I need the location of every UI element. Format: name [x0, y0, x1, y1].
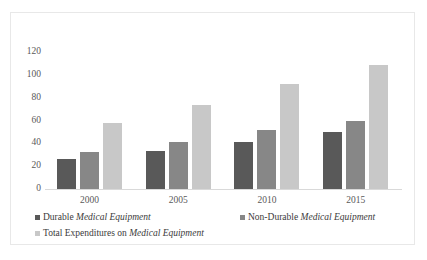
legend-item-label: Non-Durable Medical Equipment	[248, 211, 375, 223]
bar-durable-2015[interactable]	[323, 132, 342, 189]
y-tick-label: 120	[15, 47, 41, 57]
chart-frame: 120 100 80 60 40 20 0	[10, 12, 415, 245]
y-tick-label: 40	[15, 139, 41, 149]
bar-group-2000	[45, 52, 134, 189]
bar-durable-2000[interactable]	[57, 159, 76, 189]
legend-item-label: Durable Medical Equipment	[43, 211, 151, 223]
y-tick-label: 60	[15, 116, 41, 126]
bar-durable-2010[interactable]	[234, 142, 253, 189]
bar-group-2005	[134, 52, 223, 189]
legend-text-plain: Total Expenditures on	[43, 228, 129, 238]
legend-swatch-icon	[240, 215, 245, 220]
legend-text-italic: Medical Equipment	[76, 212, 151, 222]
legend-row-1: Durable Medical Equipment Non-Durable Me…	[35, 211, 405, 223]
y-tick-label: 100	[15, 70, 41, 80]
x-tick-label: 2005	[134, 193, 223, 207]
legend-item-non-durable[interactable]: Non-Durable Medical Equipment	[240, 211, 375, 223]
x-axis: 2000 2005 2010 2015	[45, 193, 400, 207]
bar-non-durable-2000[interactable]	[80, 152, 99, 189]
legend-item-durable[interactable]: Durable Medical Equipment	[35, 211, 240, 223]
bar-durable-2005[interactable]	[146, 151, 165, 189]
chart-legend: Durable Medical Equipment Non-Durable Me…	[35, 211, 405, 243]
legend-swatch-icon	[35, 215, 40, 220]
bar-total-2000[interactable]	[103, 123, 122, 189]
y-tick-label: 80	[15, 93, 41, 103]
legend-row-2: Total Expenditures on Medical Equipment	[35, 227, 405, 239]
plot-area	[45, 52, 400, 189]
bar-total-2005[interactable]	[192, 105, 211, 189]
x-tick-label: 2015	[311, 193, 400, 207]
legend-swatch-icon	[35, 231, 40, 236]
bar-non-durable-2015[interactable]	[346, 121, 365, 190]
y-tick-label: 20	[15, 161, 41, 171]
x-axis-line	[45, 189, 402, 190]
bar-non-durable-2010[interactable]	[257, 130, 276, 189]
legend-text-italic: Medical Equipment	[129, 228, 204, 238]
bar-groups	[45, 52, 400, 189]
legend-text-italic: Medical Equipment	[301, 212, 376, 222]
bar-total-2010[interactable]	[280, 84, 299, 189]
y-tick-label: 0	[15, 184, 41, 194]
bar-total-2015[interactable]	[369, 65, 388, 189]
legend-text-plain: Non-Durable	[248, 212, 301, 222]
legend-item-label: Total Expenditures on Medical Equipment	[43, 227, 204, 239]
legend-text-plain: Durable	[43, 212, 76, 222]
legend-item-total-expenditures[interactable]: Total Expenditures on Medical Equipment	[35, 227, 204, 239]
x-tick-label: 2000	[45, 193, 134, 207]
y-axis: 120 100 80 60 40 20 0	[13, 52, 41, 189]
bar-group-2010	[223, 52, 312, 189]
bar-non-durable-2005[interactable]	[169, 142, 188, 189]
x-tick-label: 2010	[223, 193, 312, 207]
bar-group-2015	[311, 52, 400, 189]
